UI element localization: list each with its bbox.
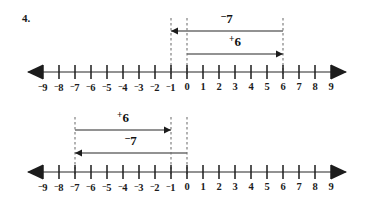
axis-tick-label: –8 bbox=[54, 82, 63, 94]
axis-tick-label: 8 bbox=[312, 82, 317, 93]
sign-glyph: – bbox=[102, 181, 106, 190]
sign-glyph: – bbox=[54, 181, 58, 190]
sign-glyph: – bbox=[150, 81, 154, 90]
axis-tick-label: –8 bbox=[54, 182, 63, 194]
axis-tick-label: 7 bbox=[296, 82, 301, 93]
axis-tick-label: –5 bbox=[102, 82, 111, 94]
axis-tick-label: –3 bbox=[134, 182, 143, 194]
jump-arrowhead-icon bbox=[171, 27, 178, 34]
jump-arrowhead-icon bbox=[75, 149, 82, 156]
axis-tick-label: 8 bbox=[312, 182, 317, 193]
jump-label: –7 bbox=[221, 12, 233, 25]
axis-tick-label: –9 bbox=[38, 82, 47, 94]
axis-tick-label: 9 bbox=[328, 82, 333, 93]
axis-tick-label: 7 bbox=[296, 182, 301, 193]
axis-tick-label: –1 bbox=[166, 182, 175, 194]
arrow-right-icon bbox=[331, 65, 347, 80]
sign-glyph: – bbox=[118, 81, 122, 90]
axis-tick-label: –7 bbox=[70, 182, 79, 194]
axis-tick-label: 4 bbox=[248, 82, 253, 93]
axis-tick-label: 4 bbox=[248, 182, 253, 193]
axis-tick-label: 9 bbox=[328, 182, 333, 193]
arrow-left-icon bbox=[27, 65, 43, 80]
axis-tick-label: –2 bbox=[150, 182, 159, 194]
axis-tick-label: 2 bbox=[216, 182, 221, 193]
sign-glyph: – bbox=[150, 181, 154, 190]
jump-label: +6 bbox=[229, 35, 241, 48]
sign-glyph: – bbox=[221, 11, 226, 21]
axis-tick-label: –4 bbox=[118, 182, 127, 194]
axis-tick-label: –4 bbox=[118, 82, 127, 94]
axis-tick-label: 1 bbox=[200, 182, 205, 193]
axis-tick-label: –3 bbox=[134, 82, 143, 94]
sign-glyph: – bbox=[54, 81, 58, 90]
numberline-diagram-1: –7+6–9–8–7–6–5–4–3–2–10123456789 bbox=[0, 0, 373, 105]
jump-arrowhead-icon bbox=[276, 50, 283, 57]
arrow-left-icon bbox=[27, 165, 43, 180]
sign-glyph: – bbox=[86, 181, 90, 190]
sign-glyph: – bbox=[38, 81, 42, 90]
sign-glyph: – bbox=[70, 81, 74, 90]
axis-tick-label: –5 bbox=[102, 182, 111, 194]
sign-glyph: + bbox=[117, 110, 122, 120]
axis-tick-label: 3 bbox=[232, 82, 237, 93]
axis-tick-label: 3 bbox=[232, 182, 237, 193]
axis-tick-label: 2 bbox=[216, 82, 221, 93]
sign-glyph: – bbox=[86, 81, 90, 90]
sign-glyph: – bbox=[166, 181, 170, 190]
axis-tick-label: 6 bbox=[280, 82, 285, 93]
jump-label: +6 bbox=[117, 111, 129, 124]
sign-glyph: – bbox=[166, 81, 170, 90]
axis-tick-label: 1 bbox=[200, 82, 205, 93]
arrow-right-icon bbox=[331, 165, 347, 180]
axis-tick-label: 5 bbox=[264, 182, 269, 193]
axis-tick-label: –7 bbox=[70, 82, 79, 94]
axis-tick-label: –9 bbox=[38, 182, 47, 194]
axis-tick-label: –6 bbox=[86, 182, 95, 194]
axis-tick-label: 0 bbox=[184, 182, 189, 193]
sign-glyph: + bbox=[229, 34, 234, 44]
jump-label: –7 bbox=[125, 134, 137, 147]
axis-tick-label: 6 bbox=[280, 182, 285, 193]
sign-glyph: – bbox=[102, 81, 106, 90]
sign-glyph: – bbox=[70, 181, 74, 190]
sign-glyph: – bbox=[38, 181, 42, 190]
numberline-diagram-2: +6–7–9–8–7–6–5–4–3–2–10123456789 bbox=[0, 105, 373, 205]
axis-tick-label: –6 bbox=[86, 82, 95, 94]
sign-glyph: – bbox=[134, 181, 138, 190]
axis-tick-label: –1 bbox=[166, 82, 175, 94]
axis-tick-label: –2 bbox=[150, 82, 159, 94]
sign-glyph: – bbox=[125, 133, 130, 143]
jump-arrowhead-icon bbox=[164, 126, 171, 133]
sign-glyph: – bbox=[134, 81, 138, 90]
axis-tick-label: 5 bbox=[264, 82, 269, 93]
axis-tick-label: 0 bbox=[184, 82, 189, 93]
sign-glyph: – bbox=[118, 181, 122, 190]
